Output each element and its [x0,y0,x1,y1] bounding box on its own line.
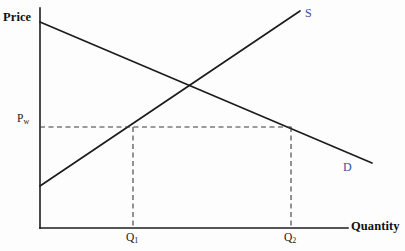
q2-subscript: 2 [292,236,296,245]
demand-curve [40,22,372,163]
world-price-tick-label: Pw [17,112,29,124]
supply-curve [40,11,300,186]
q1-subscript: 1 [134,236,138,245]
q2-tick-label: Q2 [284,231,296,243]
supply-curve-label: S [305,6,312,21]
supply-demand-diagram: Price Quantity S D Pw Q1 Q2 [0,0,405,251]
demand-curve-label: D [343,160,352,175]
y-axis-title: Price [3,10,31,25]
diagram-canvas [0,0,405,251]
q1-tick-label: Q1 [126,231,138,243]
pw-subscript: w [23,117,29,126]
x-axis-title: Quantity [351,219,400,234]
